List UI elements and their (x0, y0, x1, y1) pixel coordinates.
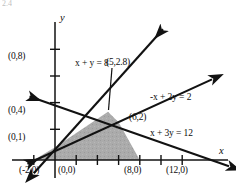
label-vertex-6-2: (6,2) (129, 113, 146, 123)
label-x-12: (12,0) (166, 166, 188, 176)
equation-label-line2: -x + 2y = 2 (150, 92, 191, 102)
label-origin: (0,0) (58, 166, 75, 176)
equation-label-line3: x + 3y = 12 (150, 128, 193, 138)
label-x-neg2: (-2,0) (19, 166, 39, 176)
label-x-8: (8,0) (124, 166, 141, 176)
label-y-intercept-1: (0,1) (8, 133, 25, 143)
label-y-intercept-8: (0,8) (8, 52, 25, 62)
label-y-intercept-4: (0,4) (8, 106, 25, 116)
x-axis-label: x (219, 145, 224, 156)
label-vertex-5-2point8: (5,2.8) (106, 58, 130, 68)
y-axis-label: y (60, 12, 65, 23)
graph-canvas (0, 0, 236, 187)
equation-label-line1: x + y = 8 (75, 58, 109, 68)
